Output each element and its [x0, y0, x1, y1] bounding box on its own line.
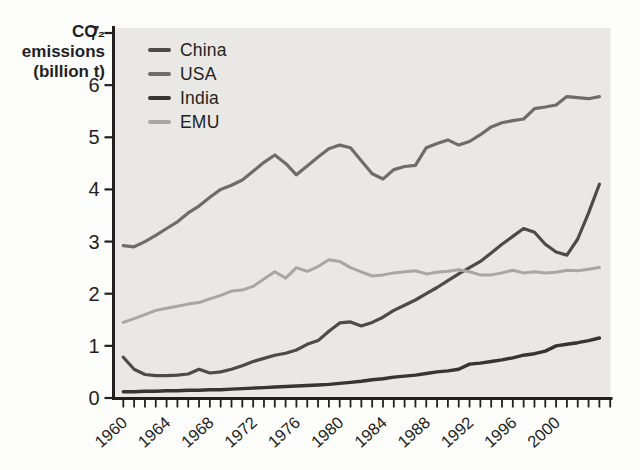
x-tick-label-1996: 1996	[480, 413, 519, 451]
chart-legend: China USA India EMU	[148, 38, 227, 134]
y-tick-label-0: 0	[88, 387, 99, 409]
legend-item-emu: EMU	[148, 110, 227, 134]
legend-swatch-usa	[148, 72, 171, 76]
x-tick-label-1972: 1972	[221, 413, 260, 451]
x-ticks	[123, 400, 610, 408]
legend-item-usa: USA	[148, 62, 227, 86]
legend-item-india: India	[148, 86, 227, 110]
x-tick-labels: 1960196419681972197619801984198819921996…	[91, 413, 563, 451]
legend-label-usa: USA	[180, 64, 217, 85]
x-tick-label-2000: 2000	[524, 413, 563, 451]
x-tick-label-1976: 1976	[264, 413, 303, 451]
x-tick-label-1984: 1984	[351, 413, 390, 451]
legend-label-india: India	[180, 88, 219, 109]
x-tick-label-1980: 1980	[307, 413, 346, 451]
y-tick-label-6: 6	[88, 74, 99, 96]
y-tick-labels: 01234567	[88, 22, 99, 409]
x-tick-label-1964: 1964	[134, 413, 173, 451]
x-tick-label-1992: 1992	[437, 413, 476, 451]
co2-emissions-figure: CO₂ emissions (billion t) 01234567196019…	[0, 0, 640, 470]
y-tick-label-7: 7	[88, 22, 99, 44]
y-tick-label-2: 2	[88, 283, 99, 305]
y-tick-label-5: 5	[88, 126, 99, 148]
legend-swatch-india	[148, 96, 171, 100]
y-tick-label-1: 1	[88, 335, 99, 357]
legend-swatch-china	[148, 48, 171, 52]
legend-swatch-emu	[148, 120, 171, 124]
legend-item-china: China	[148, 38, 227, 62]
y-tick-label-3: 3	[88, 231, 99, 253]
legend-label-china: China	[180, 40, 227, 61]
x-tick-label-1960: 1960	[91, 413, 130, 451]
x-tick-label-1988: 1988	[394, 413, 433, 451]
y-tick-label-4: 4	[88, 178, 99, 200]
legend-label-emu: EMU	[180, 112, 220, 133]
x-tick-label-1968: 1968	[178, 413, 217, 451]
chart-canvas: 0123456719601964196819721976198019841988…	[0, 0, 640, 470]
